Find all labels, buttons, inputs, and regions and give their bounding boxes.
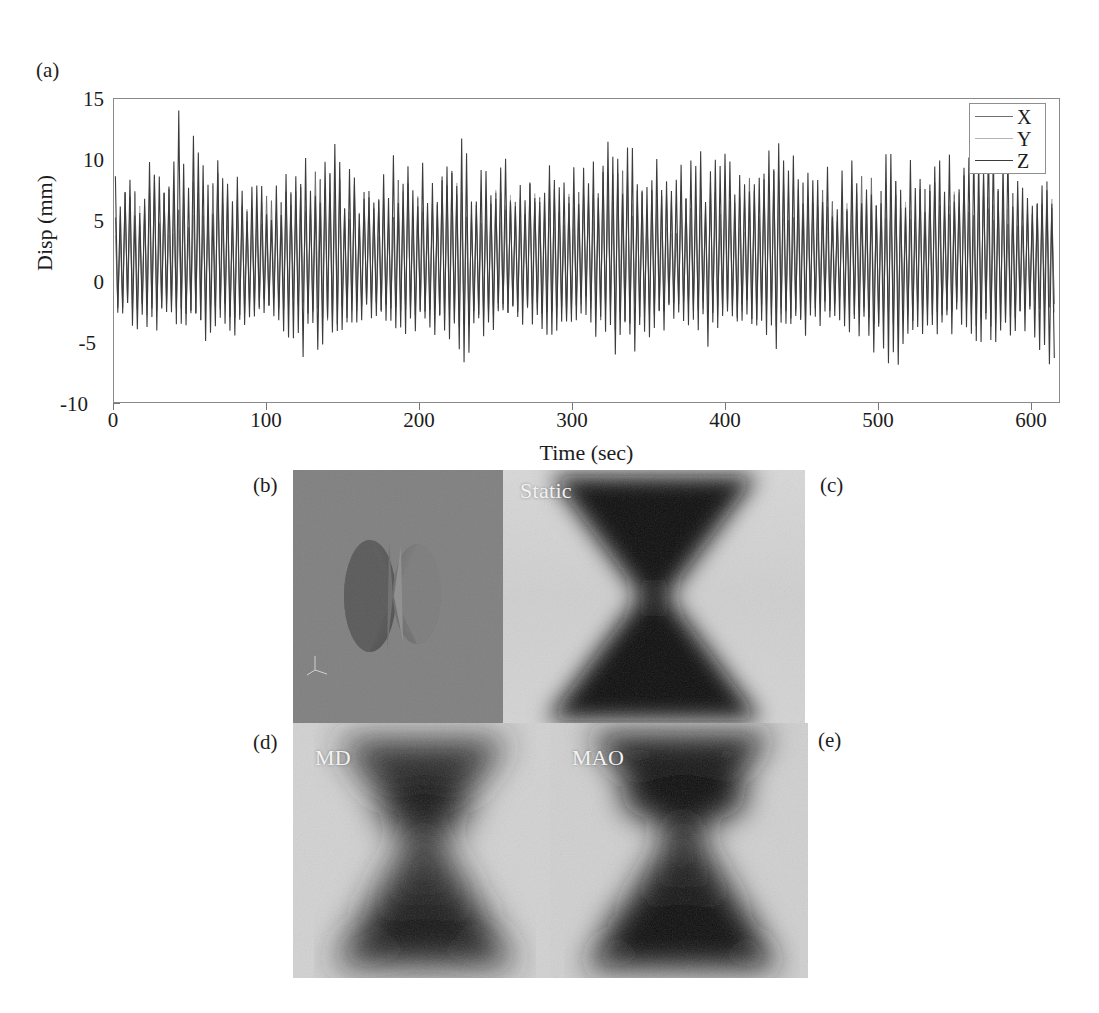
figure-root: (a) Disp (mm) Time (sec) 15 10 5 0 -5 -1… xyxy=(0,0,1099,1013)
y-tick-label-neg5: -5 xyxy=(44,333,96,354)
legend-entry-x: X xyxy=(970,106,1045,128)
panel-c-caption: Static xyxy=(520,478,572,504)
legend-entry-y: Y xyxy=(970,128,1045,150)
legend-label-y: Y xyxy=(1017,129,1031,149)
x-tick-label-100: 100 xyxy=(250,410,282,431)
legend-entry-z: Z xyxy=(970,150,1045,172)
trace-z xyxy=(115,110,1054,364)
y-tick-label-0: 0 xyxy=(52,272,104,293)
x-tick-label-0: 0 xyxy=(108,410,119,431)
panel-d-label: (d) xyxy=(253,730,278,755)
x-tick-label-600: 600 xyxy=(1015,410,1047,431)
y-tick-label-15: 15 xyxy=(52,89,104,110)
panel-b-3d-render xyxy=(293,470,503,723)
panel-a-timeseries: (a) Disp (mm) Time (sec) 15 10 5 0 -5 -1… xyxy=(0,30,1099,450)
panel-a-label: (a) xyxy=(36,58,59,83)
double-cone-render xyxy=(293,470,503,723)
panel-c-static-field: Static xyxy=(503,470,805,723)
plot-area: X Y Z xyxy=(113,98,1060,403)
x-tick-label-200: 200 xyxy=(403,410,435,431)
panel-e-mao-field: MAO xyxy=(550,723,808,978)
panel-e-label: (e) xyxy=(818,728,841,753)
panel-b-label: (b) xyxy=(253,473,278,498)
legend-line-y xyxy=(975,138,1013,139)
panel-e-caption: MAO xyxy=(572,745,624,771)
panel-d-caption: MD xyxy=(315,745,351,771)
static-hourglass-field xyxy=(503,470,805,723)
y-tick-mark xyxy=(113,403,120,404)
legend-line-z xyxy=(975,160,1013,161)
legend-label-x: X xyxy=(1017,107,1031,127)
x-axis-title: Time (sec) xyxy=(113,440,1060,466)
x-tick-label-500: 500 xyxy=(862,410,894,431)
panel-d-md-field: MD xyxy=(293,723,550,978)
y-tick-label-neg10: -10 xyxy=(36,394,88,415)
legend-line-x xyxy=(975,116,1013,117)
panel-c-label: (c) xyxy=(820,473,843,498)
y-tick-label-10: 10 xyxy=(52,150,104,171)
y-tick-label-5: 5 xyxy=(52,211,104,232)
legend-label-z: Z xyxy=(1017,151,1029,171)
x-tick-label-400: 400 xyxy=(709,410,741,431)
x-tick-label-300: 300 xyxy=(556,410,588,431)
legend: X Y Z xyxy=(969,103,1046,174)
waveform-traces xyxy=(114,99,1059,402)
